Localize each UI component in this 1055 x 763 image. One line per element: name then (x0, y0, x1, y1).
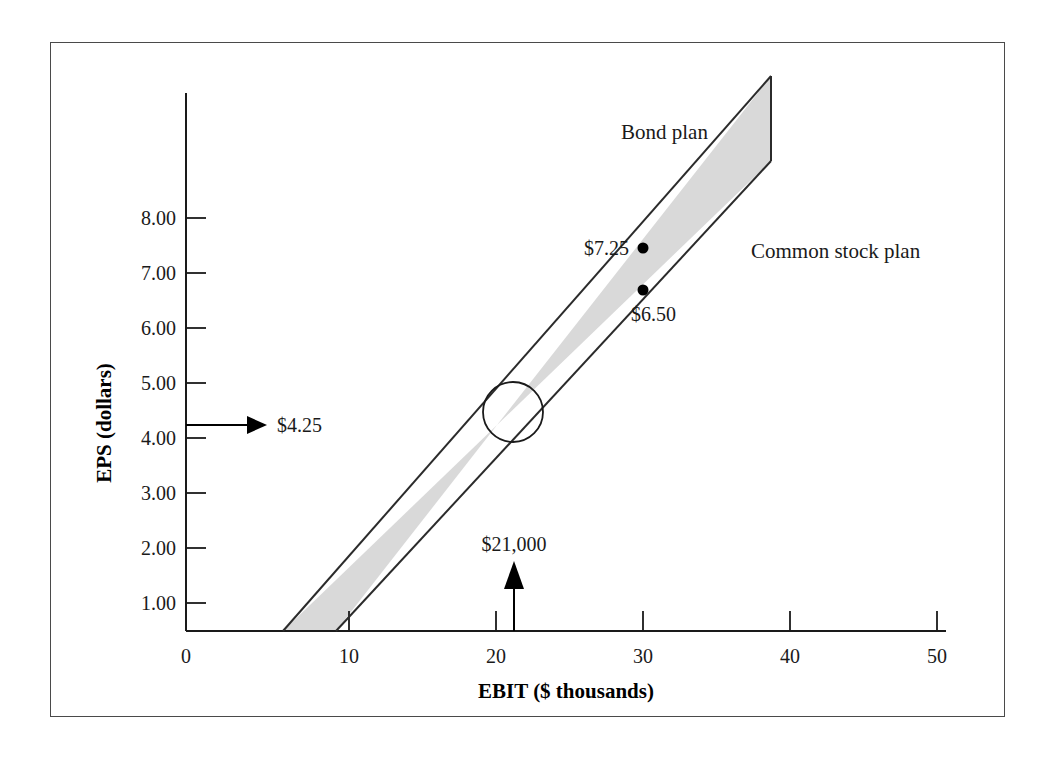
eps-indifference-label: $4.25 (277, 414, 322, 436)
eps-indifference-annotation: $4.25 (186, 414, 322, 436)
x-tick-label-0: 0 (181, 645, 191, 667)
x-tick-label-30: 30 (633, 645, 653, 667)
data-point-label-bond: $7.25 (584, 237, 629, 259)
y-tick-label-2: 2.00 (141, 537, 176, 559)
data-point-label-stock: $6.50 (631, 303, 676, 325)
data-point-bond-7-25 (638, 243, 649, 254)
common-stock-plan-label: Common stock plan (751, 239, 921, 263)
y-tick-label-5: 5.00 (141, 372, 176, 394)
y-tick-group (186, 218, 206, 603)
eps-indifference-arrow-head (247, 416, 267, 434)
x-axis-title: EBIT ($ thousands) (478, 679, 654, 703)
y-tick-label-1: 1.00 (141, 592, 176, 614)
x-tick-label-40: 40 (780, 645, 800, 667)
y-tick-label-8: 8.00 (141, 207, 176, 229)
common-stock-plan-line (336, 161, 771, 631)
ebit-indifference-arrow-head (504, 561, 524, 589)
y-tick-label-6: 6.00 (141, 317, 176, 339)
bond-plan-label: Bond plan (621, 120, 708, 144)
ebit-indifference-label: $21,000 (482, 533, 547, 555)
y-tick-label-7: 7.00 (141, 262, 176, 284)
y-tick-label-4: 4.00 (141, 427, 176, 449)
shaded-area-left (283, 425, 497, 631)
data-point-stock-6-50 (638, 285, 649, 296)
ebit-indifference-annotation: $21,000 (482, 533, 547, 631)
x-tick-group (349, 611, 937, 631)
x-tick-label-20: 20 (486, 645, 506, 667)
figure-page: 8.00 7.00 6.00 5.00 4.00 3.00 2.00 1.00 … (0, 0, 1055, 763)
x-tick-label-50: 50 (927, 645, 947, 667)
x-tick-label-10: 10 (339, 645, 359, 667)
crossover-circle (483, 382, 543, 442)
y-tick-label-3: 3.00 (141, 482, 176, 504)
eps-ebit-chart: 8.00 7.00 6.00 5.00 4.00 3.00 2.00 1.00 … (51, 43, 1006, 718)
figure-frame: 8.00 7.00 6.00 5.00 4.00 3.00 2.00 1.00 … (50, 42, 1005, 717)
y-axis-title: EPS (dollars) (92, 363, 116, 483)
